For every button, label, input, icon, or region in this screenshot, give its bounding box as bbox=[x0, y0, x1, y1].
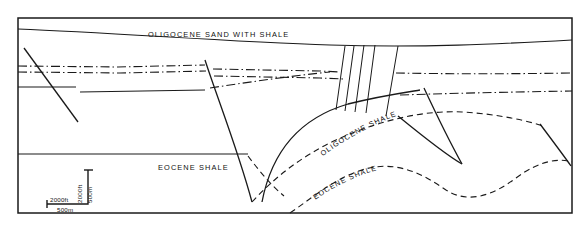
scale-label-vertical-meters: 500m bbox=[86, 187, 93, 203]
label-eocene-shale-left: EOCENE SHALE bbox=[158, 163, 229, 172]
marker-bed-upper-center bbox=[213, 69, 340, 72]
fault-right-b bbox=[398, 116, 462, 164]
marker-bed-upper-left bbox=[18, 65, 205, 67]
fault-left bbox=[24, 48, 78, 122]
fault-splay-3 bbox=[355, 45, 364, 112]
label-eocene-shale-textpath: EOCENE SHALE bbox=[311, 163, 378, 201]
marker-bed-far-right-upper bbox=[396, 73, 572, 74]
scale-label-horizontal-meters: 500m bbox=[57, 206, 73, 213]
label-eocene-shale-curved: EOCENE SHALE bbox=[311, 163, 378, 201]
marker-bed-right-ramp bbox=[210, 72, 330, 88]
label-oligocene-sand-with-shale: OLIGOCENE SAND WITH SHALE bbox=[148, 30, 289, 39]
fault-splay-4 bbox=[366, 45, 375, 113]
horizon-upper-center-block bbox=[80, 90, 205, 92]
cross-section-canvas: OLIGOCENE SAND WITH SHALE EOCENE SHALE O… bbox=[0, 0, 586, 231]
fault-center-left bbox=[205, 60, 252, 202]
scale-label-vertical-feet: 2000ft bbox=[76, 185, 83, 203]
fault-splay-5 bbox=[386, 46, 398, 116]
fault-splay-1 bbox=[336, 46, 345, 110]
label-oligocene-shale-curved: OLIGOCENE SHALE bbox=[318, 109, 397, 158]
geological-cross-section-figure: OLIGOCENE SAND WITH SHALE EOCENE SHALE O… bbox=[0, 0, 586, 231]
label-oligocene-shale-textpath: OLIGOCENE SHALE bbox=[318, 109, 397, 158]
scale-label-horizontal-feet: 2000ft bbox=[50, 196, 68, 203]
marker-bed-lower-left bbox=[18, 71, 206, 73]
fault-far-right bbox=[540, 124, 571, 166]
horizon-top-oligocene-sand bbox=[18, 29, 572, 46]
section-frame bbox=[18, 18, 572, 213]
fault-right-a bbox=[424, 88, 462, 164]
fault-splay-2 bbox=[345, 46, 354, 111]
inferred-horizon-eocene-left-flank bbox=[248, 156, 284, 196]
scale-bar: 2000ft 500m 2000ft 500m bbox=[47, 170, 93, 213]
